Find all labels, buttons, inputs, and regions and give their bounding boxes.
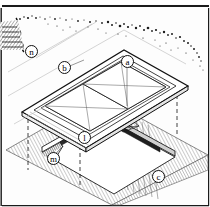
callout-l[interactable]: l bbox=[78, 131, 91, 144]
callout-m[interactable]: m bbox=[47, 152, 60, 165]
callout-c[interactable]: c bbox=[152, 170, 165, 183]
skylight-axonometric-drawing bbox=[0, 0, 210, 207]
page-margin-top bbox=[0, 0, 210, 4]
figure-canvas: a b c l m n bbox=[0, 0, 210, 207]
callout-n[interactable]: n bbox=[25, 45, 38, 58]
callout-a[interactable]: a bbox=[121, 55, 134, 68]
callout-b[interactable]: b bbox=[58, 61, 71, 74]
